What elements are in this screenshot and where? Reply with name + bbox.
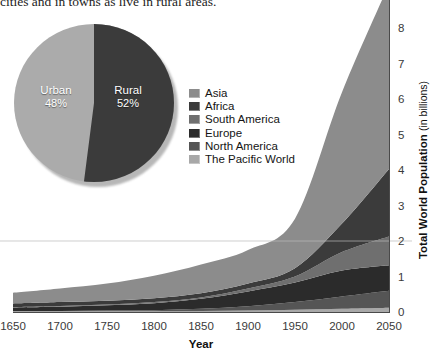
legend-swatch-asia xyxy=(189,89,200,98)
legend-item-asia: Asia xyxy=(189,87,304,100)
legend-item-europe: Europe xyxy=(189,127,304,140)
chart-legend: Asia Africa South America Europe North A… xyxy=(189,87,304,166)
legend-item-the-pacific-world: The Pacific World xyxy=(189,153,304,166)
legend-swatch-europe xyxy=(189,129,200,138)
x-tick-label: 2050 xyxy=(376,320,402,332)
y-tick-label: 4 xyxy=(398,164,405,176)
y-tick-label: 1 xyxy=(398,271,404,283)
y-tick-label: 0 xyxy=(398,306,404,318)
y-tick-label: 8 xyxy=(398,22,404,34)
legend-item-north-america: North America xyxy=(189,140,304,153)
world-population-area-chart: 0123456781650170017501800185019001950200… xyxy=(0,0,435,364)
x-tick-label: 1800 xyxy=(141,320,167,332)
legend-label-the-pacific-world: The Pacific World xyxy=(205,153,295,166)
legend-swatch-africa xyxy=(189,102,200,111)
legend-swatch-south-america xyxy=(189,115,200,124)
x-tick-label: 2000 xyxy=(329,320,355,332)
legend-label-europe: Europe xyxy=(205,127,242,140)
x-tick-label: 1700 xyxy=(47,320,73,332)
legend-label-asia: Asia xyxy=(205,87,227,100)
x-tick-label: 1950 xyxy=(282,320,308,332)
y-tick-label: 5 xyxy=(398,129,404,141)
x-tick-label: 1900 xyxy=(235,320,261,332)
x-tick-label: 1850 xyxy=(188,320,214,332)
y-tick-label: 6 xyxy=(398,93,404,105)
y-axis-title-units: (in billions) xyxy=(417,81,429,131)
y-tick-label: 7 xyxy=(398,58,404,70)
legend-label-south-america: South America xyxy=(205,113,280,126)
legend-label-north-america: North America xyxy=(205,140,278,153)
x-axis-title: Year xyxy=(189,338,214,350)
legend-swatch-the-pacific-world xyxy=(189,155,200,164)
x-tick-label: 1750 xyxy=(94,320,120,332)
legend-item-south-america: South America xyxy=(189,113,304,126)
y-axis-title: Total World Population (in billions) xyxy=(417,81,429,259)
legend-item-africa: Africa xyxy=(189,100,304,113)
y-tick-label: 3 xyxy=(398,200,404,212)
legend-label-africa: Africa xyxy=(205,100,234,113)
x-tick-label: 1650 xyxy=(0,320,26,332)
y-tick-label: 2 xyxy=(398,235,404,247)
legend-swatch-north-america xyxy=(189,142,200,151)
